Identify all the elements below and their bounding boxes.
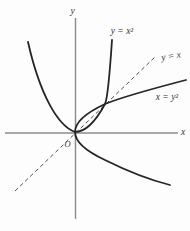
curve-y-equals-x-squared — [28, 40, 112, 132]
parabola-equation-label: y = x² — [110, 26, 134, 36]
identity-line-y-equals-x — [15, 58, 155, 192]
math-plot-figure: y x O y = x² y = x x = y² — [0, 0, 190, 231]
axes — [5, 18, 178, 219]
plot-canvas: y x O y = x² y = x x = y² — [0, 0, 190, 231]
sideways-parabola-equation-label: x = y² — [155, 92, 179, 102]
identity-equation-label: y = x — [160, 49, 183, 62]
y-axis-label: y — [69, 6, 75, 16]
x-axis-label: x — [180, 127, 186, 137]
origin-label: O — [64, 139, 70, 149]
